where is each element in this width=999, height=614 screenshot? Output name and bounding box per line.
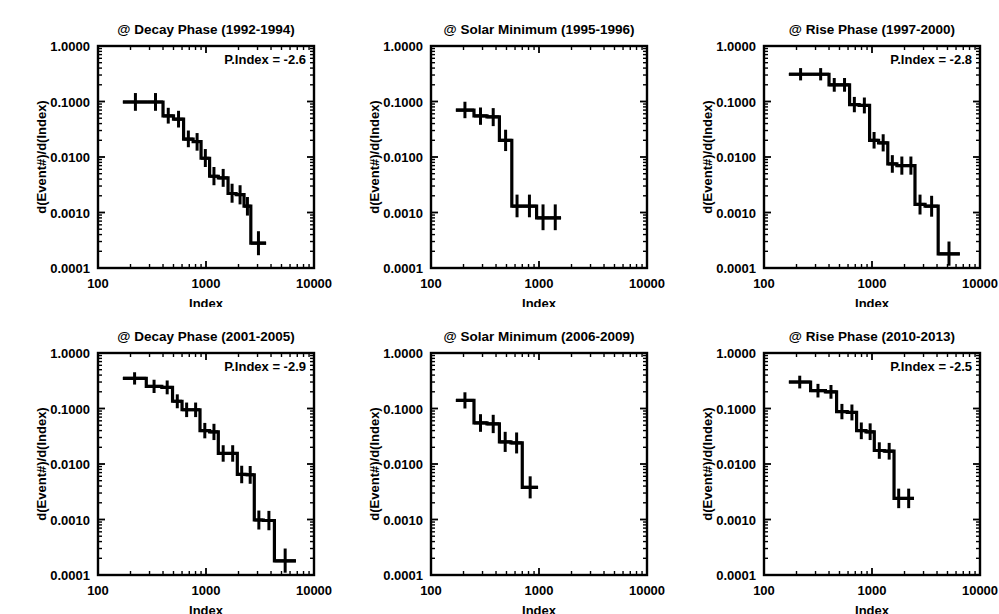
panel-1-xlabel: Index xyxy=(189,296,224,307)
y-tick-label-1: 0.1000 xyxy=(50,95,90,110)
panel-2-plot: @ Solar Minimum (1995-1996)1001000100001… xyxy=(333,0,666,307)
panel-2-step-curve xyxy=(456,110,561,218)
y-tick-label-0: 1.0000 xyxy=(383,346,423,361)
panel-2-ylabel: d(Event#)/d(Index) xyxy=(367,100,382,213)
panel-6-step-curve xyxy=(789,382,914,498)
x-tick-label-0: 100 xyxy=(420,276,442,291)
x-tick-label-1: 1000 xyxy=(858,583,887,598)
x-tick-label-2: 10000 xyxy=(296,276,332,291)
panel-2-title: @ Solar Minimum (1995-1996) xyxy=(444,22,635,37)
panel-6-title: @ Rise Phase (2010-2013) xyxy=(789,329,955,344)
panel-4-ylabel: d(Event#)/d(Index) xyxy=(34,407,49,520)
panel-5-plot-frame xyxy=(431,353,647,575)
panel-5-title: @ Solar Minimum (2006-2009) xyxy=(444,329,635,344)
panel-5-ylabel: d(Event#)/d(Index) xyxy=(367,407,382,520)
panel-4-step-curve xyxy=(123,378,296,561)
x-tick-label-2: 10000 xyxy=(296,583,332,598)
y-tick-label-0: 1.0000 xyxy=(50,346,90,361)
panel-3-plot-frame xyxy=(764,46,980,268)
panel-4: @ Decay Phase (2001-2005)1001000100001.0… xyxy=(0,307,333,614)
y-tick-label-4: 0.0001 xyxy=(383,568,423,583)
panel-5-plot: @ Solar Minimum (2006-2009)1001000100001… xyxy=(333,307,666,614)
y-tick-label-3: 0.0010 xyxy=(50,513,90,528)
y-tick-label-1: 0.1000 xyxy=(716,402,756,417)
panel-6-plot-frame xyxy=(764,353,980,575)
y-tick-label-2: 0.0100 xyxy=(716,457,756,472)
panel-1-plot: @ Decay Phase (1992-1994)1001000100001.0… xyxy=(0,0,333,307)
x-tick-label-1: 1000 xyxy=(525,276,554,291)
panel-4-plot: @ Decay Phase (2001-2005)1001000100001.0… xyxy=(0,307,333,614)
panel-2-plot-frame xyxy=(431,46,647,268)
panel-1-step-curve xyxy=(123,102,266,243)
y-tick-label-4: 0.0001 xyxy=(50,261,90,276)
x-tick-label-1: 1000 xyxy=(192,276,221,291)
panel-3: @ Rise Phase (1997-2000)1001000100001.00… xyxy=(666,0,999,307)
y-tick-label-2: 0.0100 xyxy=(50,457,90,472)
panel-4-plot-frame xyxy=(98,353,314,575)
x-tick-label-2: 10000 xyxy=(629,276,665,291)
panel-3-pindex-annotation: P.Index = -2.8 xyxy=(890,52,972,67)
x-tick-label-0: 100 xyxy=(420,583,442,598)
x-tick-label-1: 1000 xyxy=(858,276,887,291)
y-tick-label-4: 0.0001 xyxy=(383,261,423,276)
panel-4-pindex-annotation: P.Index = -2.9 xyxy=(224,359,306,374)
y-tick-label-4: 0.0001 xyxy=(716,261,756,276)
panel-1-title: @ Decay Phase (1992-1994) xyxy=(117,22,295,37)
y-tick-label-1: 0.1000 xyxy=(716,95,756,110)
y-tick-label-2: 0.0100 xyxy=(716,150,756,165)
x-tick-label-2: 10000 xyxy=(629,583,665,598)
panel-6-pindex-annotation: P.Index = -2.5 xyxy=(890,359,972,374)
x-tick-label-1: 1000 xyxy=(192,583,221,598)
panel-4-xlabel: Index xyxy=(189,603,224,614)
y-tick-label-0: 1.0000 xyxy=(50,39,90,54)
x-tick-label-2: 10000 xyxy=(962,276,998,291)
y-tick-label-4: 0.0001 xyxy=(50,568,90,583)
y-tick-label-3: 0.0010 xyxy=(716,206,756,221)
y-tick-label-0: 1.0000 xyxy=(716,39,756,54)
panel-6: @ Rise Phase (2010-2013)1001000100001.00… xyxy=(666,307,999,614)
y-tick-label-3: 0.0010 xyxy=(383,206,423,221)
panel-5-xlabel: Index xyxy=(522,603,557,614)
panel-6-plot: @ Rise Phase (2010-2013)1001000100001.00… xyxy=(666,307,999,614)
panel-3-step-curve xyxy=(789,74,960,254)
x-tick-label-0: 100 xyxy=(753,583,775,598)
panel-3-title: @ Rise Phase (1997-2000) xyxy=(789,22,955,37)
panel-1-ylabel: d(Event#)/d(Index) xyxy=(34,100,49,213)
panel-3-plot: @ Rise Phase (1997-2000)1001000100001.00… xyxy=(666,0,999,307)
y-tick-label-2: 0.0100 xyxy=(383,150,423,165)
panel-3-xlabel: Index xyxy=(855,296,890,307)
y-tick-label-0: 1.0000 xyxy=(716,346,756,361)
y-tick-label-3: 0.0010 xyxy=(716,513,756,528)
x-tick-label-0: 100 xyxy=(87,583,109,598)
y-tick-label-1: 0.1000 xyxy=(383,402,423,417)
y-tick-label-1: 0.1000 xyxy=(383,95,423,110)
panel-1-pindex-annotation: P.Index = -2.6 xyxy=(224,52,306,67)
panel-2: @ Solar Minimum (1995-1996)1001000100001… xyxy=(333,0,666,307)
x-tick-label-0: 100 xyxy=(753,276,775,291)
panel-6-ylabel: d(Event#)/d(Index) xyxy=(700,407,715,520)
y-tick-label-2: 0.0100 xyxy=(383,457,423,472)
panel-6-xlabel: Index xyxy=(855,603,890,614)
x-tick-label-0: 100 xyxy=(87,276,109,291)
panel-5-step-curve xyxy=(456,400,538,487)
panel-4-title: @ Decay Phase (2001-2005) xyxy=(117,329,295,344)
y-tick-label-4: 0.0001 xyxy=(716,568,756,583)
x-tick-label-1: 1000 xyxy=(525,583,554,598)
y-tick-label-0: 1.0000 xyxy=(383,39,423,54)
panel-2-xlabel: Index xyxy=(522,296,557,307)
panel-1: @ Decay Phase (1992-1994)1001000100001.0… xyxy=(0,0,333,307)
panel-5: @ Solar Minimum (2006-2009)1001000100001… xyxy=(333,307,666,614)
y-tick-label-3: 0.0010 xyxy=(383,513,423,528)
panel-3-ylabel: d(Event#)/d(Index) xyxy=(700,100,715,213)
x-tick-label-2: 10000 xyxy=(962,583,998,598)
y-tick-label-1: 0.1000 xyxy=(50,402,90,417)
y-tick-label-3: 0.0010 xyxy=(50,206,90,221)
y-tick-label-2: 0.0100 xyxy=(50,150,90,165)
